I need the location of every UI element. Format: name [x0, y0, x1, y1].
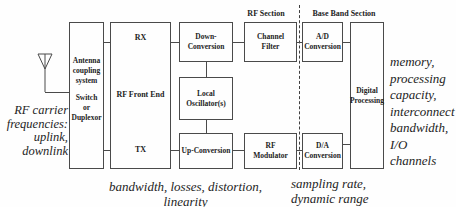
- da-conversion-box: D/A Conversion: [302, 133, 343, 169]
- connector-frontend-to-upconversion: [171, 150, 179, 151]
- connector-ad-to-digital: [343, 42, 350, 43]
- connector-coupling-to-frontend-tx: [104, 150, 110, 151]
- antenna-icon: [36, 52, 54, 92]
- section-divider-dashed-line: [299, 5, 300, 170]
- connector-modulator-to-da: [297, 150, 302, 151]
- tx-label: TX: [111, 145, 170, 155]
- digital-processing-box: Digital Processing: [350, 22, 384, 169]
- up-conversion-box: Up-Conversion: [179, 133, 233, 169]
- connector-downconversion-to-oscillator: [206, 62, 207, 77]
- down-conversion-box: Down- Conversion: [179, 22, 233, 62]
- connector-downconversion-to-channelfilter: [233, 42, 244, 43]
- converter-constraints-annotation: sampling rate, dynamic range: [291, 176, 401, 206]
- antenna-feed-line: [45, 92, 69, 93]
- connector-coupling-to-frontend-rx: [104, 42, 110, 43]
- connector-channelfilter-to-ad: [297, 42, 302, 43]
- baseband-section-label: Base Band Section: [301, 9, 387, 18]
- channel-filter-box: Channel Filter: [244, 22, 297, 62]
- antenna-coupling-box: Antenna coupling system Switch or Duplex…: [69, 22, 104, 169]
- block-diagram: RF Section Base Band Section Antenna cou…: [0, 0, 456, 207]
- rf-section-label: RF Section: [226, 9, 306, 18]
- switch-duplexor-label: Switch or Duplexor: [70, 93, 103, 123]
- antenna-coupling-label: Antenna coupling system: [70, 56, 103, 86]
- connector-da-to-digital: [343, 144, 350, 145]
- digital-constraints-annotation: memory, processing capacity, interconnec…: [390, 54, 456, 170]
- local-oscillator-box: Local Oscillator(s): [179, 77, 233, 120]
- connector-frontend-to-downconversion: [171, 42, 179, 43]
- rf-front-end-box: RX RF Front End TX: [110, 22, 171, 169]
- connector-oscillator-to-upconversion: [206, 120, 207, 133]
- rx-label: RX: [111, 33, 170, 43]
- rf-front-end-label: RF Front End: [111, 90, 170, 100]
- analog-constraints-annotation: bandwidth, losses, distortion, linearity: [88, 179, 283, 207]
- connector-upconversion-to-modulator: [233, 150, 244, 151]
- rf-carrier-annotation: RF carrier frequencies: uplink, downlink: [2, 104, 68, 158]
- ad-conversion-box: A/D Conversion: [302, 22, 343, 62]
- rf-modulator-box: RF Modulator: [244, 133, 297, 169]
